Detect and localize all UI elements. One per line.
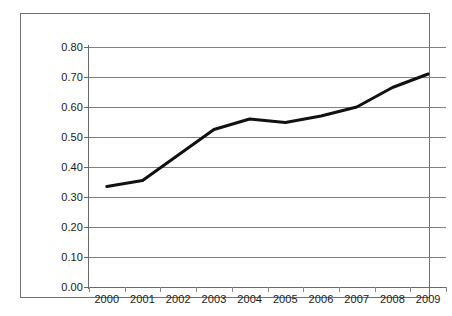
x-axis-tick-label: 2002 [166, 293, 191, 305]
y-axis-tick-label: 0.50 [61, 131, 83, 143]
chart-frame: 0.000.100.200.300.400.500.600.700.80 200… [20, 13, 430, 298]
x-axis-tick-mark [268, 287, 269, 292]
y-axis-tick-label: 0.30 [61, 191, 83, 203]
x-axis-tick-label: 2006 [309, 293, 334, 305]
y-axis-tick-label: 0.10 [61, 251, 83, 263]
x-axis-tick-mark [375, 287, 376, 292]
y-axis-tick-label: 0.00 [61, 281, 83, 293]
series-line-chart [89, 47, 446, 287]
x-axis-ticks [89, 287, 446, 292]
x-axis-tick-label: 2005 [273, 293, 298, 305]
x-axis-tick-label: 2007 [344, 293, 369, 305]
x-axis-tick-mark [410, 287, 411, 292]
x-axis-tick-label: 2000 [94, 293, 119, 305]
x-axis-tick-mark [160, 287, 161, 292]
x-axis-tick-label: 2003 [202, 293, 227, 305]
chart-container: 0.000.100.200.300.400.500.600.700.80 200… [0, 0, 452, 316]
x-axis-tick-mark [196, 287, 197, 292]
x-axis-labels: 2000200120022003200420052006200720082009 [89, 293, 446, 309]
series-polyline [107, 74, 428, 187]
y-axis-tick-label: 0.40 [61, 161, 83, 173]
x-axis-tick-mark [303, 287, 304, 292]
x-axis-tick-label: 2001 [130, 293, 155, 305]
y-axis-tick-label: 0.60 [61, 101, 83, 113]
y-axis-tick-label: 0.20 [61, 221, 83, 233]
x-axis-tick-mark [232, 287, 233, 292]
x-axis-tick-label: 2008 [380, 293, 405, 305]
x-axis-tick-mark [125, 287, 126, 292]
y-axis-tick-label: 0.80 [61, 41, 83, 53]
plot-area [89, 47, 446, 287]
x-axis-tick-label: 2009 [416, 293, 441, 305]
x-axis-tick-mark [339, 287, 340, 292]
x-axis-tick-mark [89, 287, 90, 292]
y-axis-tick-label: 0.70 [61, 71, 83, 83]
y-axis-labels: 0.000.100.200.300.400.500.600.700.80 [49, 47, 83, 287]
x-axis-tick-mark [446, 287, 447, 292]
x-axis-tick-label: 2004 [237, 293, 262, 305]
